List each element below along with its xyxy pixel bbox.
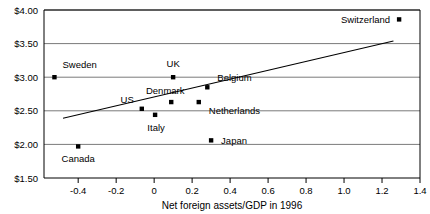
data-point-marker bbox=[197, 100, 201, 104]
x-tick-label: 1.2 bbox=[375, 185, 388, 196]
x-tick-label: 1.0 bbox=[337, 185, 350, 196]
chart-canvas: $1.50$2.00$2.50$3.00$3.50$4.00 -0.4-0.20… bbox=[0, 0, 430, 214]
x-tick-label: 1.4 bbox=[413, 185, 426, 196]
data-point-label: Denmark bbox=[146, 85, 185, 96]
y-tick-label: $1.50 bbox=[14, 173, 38, 184]
y-tick-label: $3.00 bbox=[14, 72, 38, 83]
data-point-label: Netherlands bbox=[209, 105, 260, 116]
data-point-marker bbox=[397, 17, 401, 21]
data-point-label: Canada bbox=[62, 153, 96, 164]
data-point-marker bbox=[209, 138, 213, 142]
y-tick-label: $2.00 bbox=[14, 139, 38, 150]
y-tick-label: $3.50 bbox=[14, 38, 38, 49]
x-tick-label: 0.6 bbox=[261, 185, 274, 196]
x-tick-label: 0.4 bbox=[223, 185, 236, 196]
x-tick-label: 0.2 bbox=[186, 185, 199, 196]
x-tick-label: 0 bbox=[151, 185, 156, 196]
data-point-marker bbox=[171, 75, 175, 79]
data-point-label: US bbox=[121, 94, 134, 105]
x-tick-label: 0.8 bbox=[299, 185, 312, 196]
data-point-label: Belgium bbox=[217, 72, 251, 83]
data-point-label: UK bbox=[167, 58, 181, 69]
x-tick-label: -0.2 bbox=[108, 185, 124, 196]
data-point-label: Italy bbox=[147, 122, 165, 133]
data-point-marker bbox=[140, 107, 144, 111]
data-point-label: Japan bbox=[221, 135, 247, 146]
data-point-label: Switzerland bbox=[341, 14, 390, 25]
y-tick-label: $2.50 bbox=[14, 105, 38, 116]
data-point-marker bbox=[52, 75, 56, 79]
data-point-label: Sweden bbox=[62, 59, 96, 70]
data-point-marker bbox=[205, 85, 209, 89]
data-point-marker bbox=[169, 100, 173, 104]
x-tick-label: -0.4 bbox=[70, 185, 86, 196]
y-tick-label: $4.00 bbox=[14, 5, 38, 16]
data-point-marker bbox=[153, 113, 157, 117]
scatter-chart: $1.50$2.00$2.50$3.00$3.50$4.00 -0.4-0.20… bbox=[0, 0, 430, 214]
data-point-marker bbox=[76, 144, 80, 148]
x-axis-title: Net foreign assets/GDP in 1996 bbox=[162, 200, 303, 211]
